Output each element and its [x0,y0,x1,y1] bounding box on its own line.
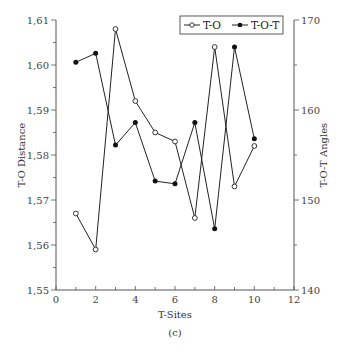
y-tick-label-right: 140 [301,285,320,296]
y-axis-title-left: T-O Distance [16,123,27,188]
x-tick-label: 0 [53,294,59,305]
y-tick-label-right: 160 [301,105,320,116]
series-line-t-o [76,29,255,250]
data-point-open-circle-icon [173,139,178,144]
data-point-open-circle-icon [133,99,138,104]
y-tick-label-right: 150 [301,195,320,206]
data-point-open-circle-icon [192,216,197,221]
data-point-open-circle-icon [232,184,237,189]
data-point-filled-circle-icon [232,45,237,50]
data-point-open-circle-icon [153,130,158,135]
data-point-filled-circle-icon [113,143,118,148]
axes: 0246810121,551,561,571,581,591,601,61140… [27,15,320,306]
y-tick-label-left: 1,56 [27,240,49,251]
chart: 0246810121,551,561,571,581,591,601,61140… [0,0,348,352]
y-tick-label-left: 1,61 [27,15,49,26]
data-point-filled-circle-icon [153,179,158,184]
data-point-filled-circle-icon [93,51,98,56]
x-tick-label: 12 [288,294,301,305]
data-point-filled-circle-icon [192,120,197,125]
legend-label: T-O [203,19,221,31]
y-tick-label-left: 1,59 [27,105,49,116]
data-point-filled-circle-icon [73,60,78,65]
filled-circle-marker-icon [238,23,243,28]
x-tick-label: 2 [92,294,98,305]
legend-label: T-O-T [251,19,279,31]
data-point-open-circle-icon [113,27,118,32]
data-point-open-circle-icon [73,211,78,216]
data-point-open-circle-icon [93,247,98,252]
data-point-filled-circle-icon [212,226,217,231]
data-point-filled-circle-icon [133,120,138,125]
data-point-open-circle-icon [252,144,257,149]
y-tick-label-left: 1,60 [27,60,49,71]
chart-caption: (c) [168,327,182,338]
x-tick-label: 4 [132,294,138,305]
open-circle-marker-icon [190,23,194,27]
data-point-filled-circle-icon [252,136,257,141]
x-tick-label: 8 [211,294,217,305]
data-point-open-circle-icon [212,45,217,50]
y-tick-label-left: 1,55 [27,285,49,296]
y-tick-label-left: 1,57 [27,195,49,206]
x-axis-title: T-Sites [158,309,192,320]
series-lines [76,29,255,250]
legend: T-O T-O-T [180,16,283,34]
x-tick-label: 6 [172,294,178,305]
series-markers [73,27,256,252]
x-tick-label: 10 [248,294,261,305]
data-point-filled-circle-icon [173,181,178,186]
y-tick-label-left: 1,58 [27,150,49,161]
y-tick-label-right: 170 [301,15,320,26]
y-axis-title-right: T-O-T Angles [318,123,329,188]
